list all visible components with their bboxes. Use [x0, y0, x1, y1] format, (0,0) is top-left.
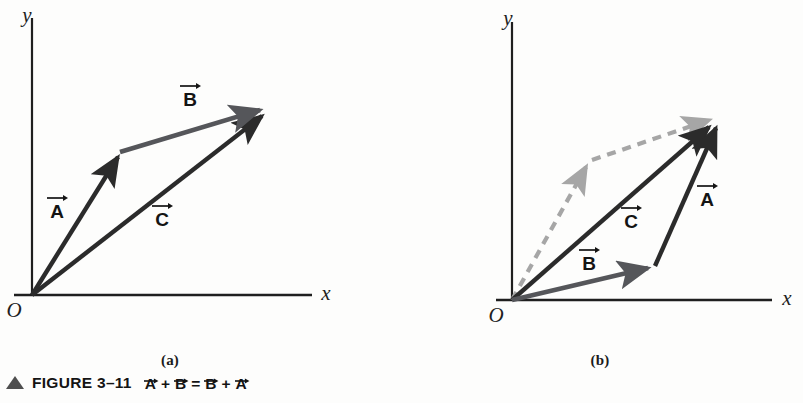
- figure-caption-number: FIGURE 3–11: [32, 374, 132, 392]
- caption-vector-b2-letter: B: [205, 375, 216, 392]
- vector-label-b-a: B: [180, 83, 201, 110]
- vector-label-a-b: A: [697, 183, 718, 210]
- caption-vector-b1-letter: B: [175, 375, 186, 392]
- vector-label-c-b: C: [621, 205, 642, 232]
- vector-label-a-a: A: [47, 195, 68, 222]
- panel-a: y x O A B C: [0, 0, 400, 345]
- panel-b: y x O B A C: [400, 0, 803, 345]
- caption-vector-a2: A: [236, 373, 247, 393]
- x-axis-label-a: x: [320, 281, 331, 305]
- vector-a-ghost-b: [512, 167, 586, 300]
- up-triangle-icon: [6, 376, 24, 389]
- svg-text:B: B: [183, 89, 197, 110]
- vector-label-c-a: C: [152, 203, 173, 230]
- vector-b-a: [120, 110, 260, 152]
- svg-text:B: B: [582, 253, 596, 274]
- figure-caption-equation: A + B = B: [145, 373, 247, 393]
- caption-vector-a1: A: [145, 373, 156, 393]
- panel-a-label: (a): [110, 352, 230, 369]
- caption-op-plus-1: +: [161, 375, 170, 393]
- figure-caption: FIGURE 3–11 A + B: [6, 373, 247, 393]
- panel-b-label: (b): [540, 352, 660, 369]
- vector-a-a: [32, 157, 118, 295]
- caption-vector-a1-letter: A: [145, 375, 156, 392]
- svg-text:A: A: [700, 189, 714, 210]
- vector-label-b-b: B: [579, 247, 600, 274]
- y-axis-label-a: y: [20, 3, 32, 27]
- panel-a-diagram: y x O A B C: [0, 0, 400, 345]
- origin-label-a: O: [6, 298, 21, 322]
- panel-b-diagram: y x O B A C: [400, 0, 803, 345]
- figure-3-11: y x O A B C: [0, 0, 803, 403]
- svg-text:A: A: [50, 201, 64, 222]
- caption-op-equals: =: [191, 375, 200, 393]
- caption-vector-b2: B: [205, 373, 216, 393]
- caption-vector-a2-letter: A: [236, 375, 247, 392]
- svg-text:C: C: [155, 209, 169, 230]
- y-axis-label-b: y: [501, 6, 513, 30]
- caption-vector-b1: B: [175, 373, 186, 393]
- x-axis-label-b: x: [781, 286, 792, 310]
- caption-op-plus-2: +: [222, 375, 231, 393]
- svg-text:C: C: [624, 211, 638, 232]
- origin-label-b: O: [488, 303, 503, 327]
